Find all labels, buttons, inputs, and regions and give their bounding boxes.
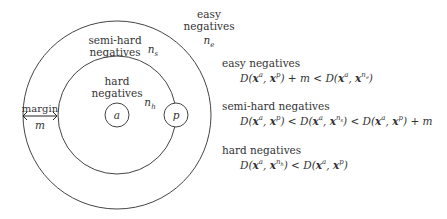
margin-label: margin [20,103,60,115]
semi-hard-negatives-label: semi-hard negatives [80,34,150,58]
hard-label-line1: hard [82,75,152,87]
rule-easy-equation: D(xa, xp) + m < D(xa, xne) [240,71,373,84]
easy-label-line2: negatives [174,20,244,32]
easy-label-line1: easy [174,8,244,20]
easy-negatives-label: easy negatives [174,8,244,32]
margin-symbol: m [30,119,50,131]
ns-sub: s [155,50,159,58]
rule-hard-title: hard negatives [222,144,301,156]
rule-semi-hard-equation: D(xa, xp) < D(xa, xns) < D(xa, xp) + m [240,114,433,127]
anchor-label: a [107,109,127,121]
rule-semi-hard-title: semi-hard negatives [222,100,330,112]
semi-hard-negatives-symbol: ns [143,43,163,60]
semi-hard-label-line2: negatives [80,46,150,58]
semi-hard-label-line1: semi-hard [80,34,150,46]
rule-easy-title: easy negatives [222,57,300,69]
hard-negatives-symbol: nh [140,96,160,113]
ne-sub: e [210,41,214,49]
nh-sub: h [151,103,156,111]
easy-negatives-symbol: ne [194,34,224,51]
ns-symbol: n [148,43,155,55]
positive-label: p [166,109,186,121]
rule-hard-equation: D(xa, xnh) < D(xa, xp) [240,158,348,171]
